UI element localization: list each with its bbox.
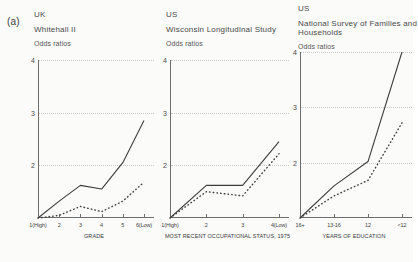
x-axis-tick-label: 2 bbox=[58, 222, 61, 228]
y-axis-label: Odds ratios bbox=[34, 40, 154, 47]
x-axis-tick-label: 2 bbox=[205, 222, 208, 228]
x-axis-tick-label: 5 bbox=[121, 222, 124, 228]
plot-area: 2341(High)234(Low)MOST RECENT OCCUPATION… bbox=[170, 60, 285, 218]
x-axis-tick-label: 12 bbox=[365, 222, 371, 228]
figure-panel-letter: (a) bbox=[7, 16, 20, 27]
y-axis-tick-label: 2 bbox=[293, 159, 297, 166]
y-axis-tick-label: 3 bbox=[31, 109, 35, 116]
series-layer bbox=[300, 52, 416, 220]
x-axis-tick-label: 1(High) bbox=[161, 222, 178, 228]
panel-country-label: UK bbox=[34, 10, 154, 19]
x-axis-tick-label: 16+ bbox=[295, 222, 304, 228]
x-axis-tick-label: 13-16 bbox=[327, 222, 341, 228]
x-axis-title: GRADE bbox=[84, 233, 104, 239]
y-axis-tick-label: 2 bbox=[163, 162, 167, 169]
panel-study-title: National Survey of Families and Househol… bbox=[298, 19, 418, 37]
panel-heading: US Wisconsin Longitudinal Study Odds rat… bbox=[166, 10, 286, 47]
plot-area: 2341(High)23456(Low)GRADE bbox=[38, 60, 150, 218]
x-axis-tick-label: <12 bbox=[397, 222, 406, 228]
chart-panel-wisconsin: US Wisconsin Longitudinal Study Odds rat… bbox=[160, 0, 290, 262]
panel-study-title: Whitehall II bbox=[34, 25, 154, 34]
y-axis-tick-label: 4 bbox=[31, 57, 35, 64]
x-axis-tick-label: 3 bbox=[79, 222, 82, 228]
plot-area: 23416+13-1612<12YEARS OF EDUCATION bbox=[300, 52, 408, 218]
chart-panel-whitehall: UK Whitehall II Odds ratios 2341(High)23… bbox=[28, 0, 156, 262]
x-axis-tick-label: 1(High) bbox=[29, 222, 46, 228]
chart-panel-nsfh: US National Survey of Families and House… bbox=[292, 0, 413, 262]
panel-country-label: US bbox=[298, 4, 418, 13]
series-layer bbox=[170, 60, 293, 220]
y-axis-label: Odds ratios bbox=[166, 40, 286, 47]
y-axis-tick-label: 4 bbox=[293, 49, 297, 56]
x-axis-tick-label: 6(Low) bbox=[136, 222, 152, 228]
x-axis-title: YEARS OF EDUCATION bbox=[322, 233, 385, 239]
x-axis-tick-label: 4 bbox=[100, 222, 103, 228]
series-line-solid bbox=[300, 52, 402, 218]
series-layer bbox=[38, 60, 158, 220]
series-line-solid bbox=[38, 121, 144, 218]
y-axis-label: Odds ratios bbox=[298, 43, 418, 50]
series-line-solid bbox=[170, 142, 279, 218]
x-axis-title: MOST RECENT OCCUPATIONAL STATUS, 1975 bbox=[165, 233, 290, 239]
panel-heading: US National Survey of Families and House… bbox=[298, 4, 418, 50]
panel-study-title: Wisconsin Longitudinal Study bbox=[166, 25, 286, 34]
x-axis-tick-label: 4(Low) bbox=[271, 222, 287, 228]
y-axis-tick-label: 2 bbox=[31, 162, 35, 169]
panel-heading: UK Whitehall II Odds ratios bbox=[34, 10, 154, 47]
y-axis-tick-label: 3 bbox=[163, 109, 167, 116]
panel-country-label: US bbox=[166, 10, 286, 19]
y-axis-tick-label: 3 bbox=[293, 104, 297, 111]
y-axis-tick-label: 4 bbox=[163, 57, 167, 64]
x-axis-tick-label: 3 bbox=[241, 222, 244, 228]
